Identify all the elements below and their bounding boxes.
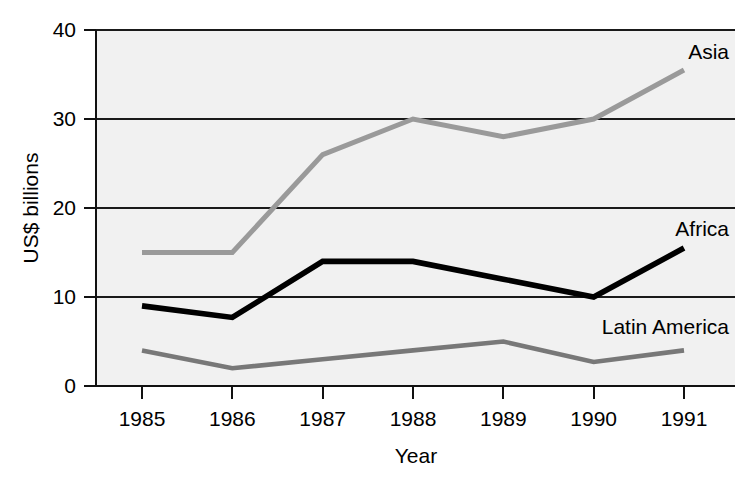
x-tick-labels: 1985198619871988198919901991	[119, 407, 708, 430]
x-tick-label-1990: 1990	[570, 407, 617, 430]
y-tick-label-30: 30	[53, 107, 76, 130]
x-tick-label-1991: 1991	[661, 407, 708, 430]
x-tick-label-1985: 1985	[119, 407, 166, 430]
y-tick-labels: 010203040	[53, 18, 76, 397]
x-tick-label-1986: 1986	[209, 407, 256, 430]
x-axis-title: Year	[395, 444, 437, 467]
x-tick-label-1988: 1988	[390, 407, 437, 430]
series-label-africa: Africa	[675, 217, 729, 240]
x-tick-label-1987: 1987	[299, 407, 346, 430]
series-label-asia: Asia	[688, 40, 729, 63]
y-tick-label-0: 0	[64, 374, 76, 397]
line-chart: 010203040 1985198619871988198919901991 A…	[0, 0, 748, 481]
y-tick-label-20: 20	[53, 196, 76, 219]
y-axis-title: US$ billions	[19, 153, 42, 264]
y-tick-label-10: 10	[53, 285, 76, 308]
chart-canvas: 010203040 1985198619871988198919901991 A…	[0, 0, 748, 481]
x-tick-label-1989: 1989	[480, 407, 527, 430]
y-tick-label-40: 40	[53, 18, 76, 41]
series-label-latin-america: Latin America	[602, 315, 730, 338]
